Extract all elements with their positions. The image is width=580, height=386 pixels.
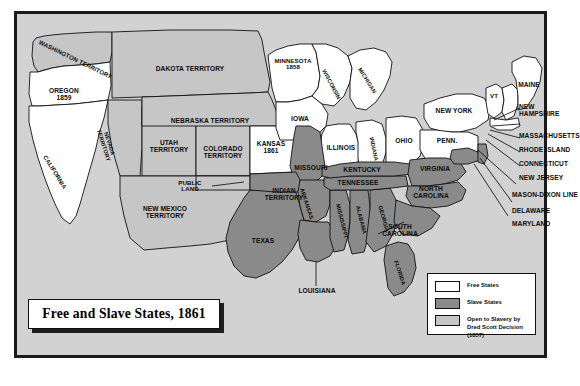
map-legend: Free States Slave States Open to Slavery…	[427, 273, 536, 335]
label-colorado-territory: COLORADO TERRITORY	[196, 146, 250, 159]
page-title: Free and Slave States, 1861	[42, 306, 205, 322]
label-virginia: VIRGINIA	[412, 166, 458, 173]
label-pennsylvania: PENN.	[428, 138, 466, 145]
label-delaware: DELAWARE	[512, 208, 562, 215]
legend-label-slave: Slave States	[467, 298, 502, 307]
label-maryland: MARYLAND	[512, 221, 562, 228]
legend-item-slave-states: Slave States	[435, 298, 535, 309]
legend-item-open-to-slavery: Open to Slavery by Dred Scott Decision (…	[435, 315, 535, 339]
legend-swatch-free	[435, 281, 460, 292]
label-north-carolina: NORTH CAROLINA	[406, 186, 456, 199]
label-public-land: PUBLIC LAND	[168, 180, 212, 192]
label-minnesota: MINNESOTA 1858	[267, 58, 319, 70]
region-minnesota	[268, 44, 320, 102]
label-texas: TEXAS	[243, 238, 283, 245]
label-illinois: ILLINOIS	[322, 145, 360, 152]
map-title-box: Free and Slave States, 1861	[28, 299, 220, 329]
label-missouri: MISSOURI	[288, 165, 334, 172]
label-iowa: IOWA	[283, 116, 317, 123]
label-nebraska-territory: NEBRASKA TERRITORY	[155, 118, 265, 125]
label-oregon: OREGON 1859	[38, 88, 90, 101]
legend-swatch-slave	[435, 298, 460, 309]
label-rhode-island: RHODE ISLAND	[519, 147, 579, 154]
label-utah-territory: UTAH TERRITORY	[142, 140, 196, 153]
legend-swatch-open	[435, 315, 460, 326]
legend-label-open: Open to Slavery by Dred Scott Decision (…	[467, 315, 535, 339]
label-kentucky: KENTUCKY	[338, 167, 386, 174]
label-connecticut: CONNECTICUT	[519, 161, 579, 168]
label-vermont: VT	[486, 93, 502, 99]
label-new-jersey: NEW JERSEY	[519, 175, 579, 182]
legend-item-free-states: Free States	[435, 281, 535, 292]
label-kansas: KANSAS 1861	[246, 141, 296, 154]
label-mason-dixon-line: MASON-DIXON LINE	[512, 192, 580, 199]
label-new-york: NEW YORK	[428, 108, 480, 115]
label-tennessee: TENNESSEE	[330, 180, 386, 187]
label-ohio: OHIO	[388, 138, 420, 145]
region-dakota-territory	[112, 30, 270, 98]
label-new-mexico-territory: NEW MEXICO TERRITORY	[128, 206, 202, 219]
map-figure: WASHINGTON TERRITORY DAKOTA TERRITORY NE…	[0, 0, 580, 386]
legend-label-free: Free States	[467, 281, 499, 290]
label-massachusetts: MASSACHUSETTS	[519, 133, 579, 140]
region-california	[29, 100, 108, 224]
label-dakota-territory: DAKOTA TERRITORY	[140, 66, 240, 73]
label-louisiana: LOUISIANA	[294, 288, 340, 295]
region-vermont	[486, 84, 504, 118]
label-new-hampshire: NEW HAMPSHIRE	[519, 104, 575, 117]
label-south-carolina: SOUTH CAROLINA	[374, 224, 426, 237]
region-new-hampshire	[502, 84, 518, 120]
label-maine: MAINE	[512, 82, 546, 89]
